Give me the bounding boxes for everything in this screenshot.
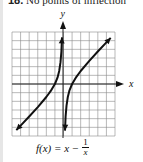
y-axis-arrow-icon bbox=[60, 21, 66, 29]
caption-lhs: f(x) = x − bbox=[36, 142, 79, 154]
function-caption: f(x) = x − 1 x bbox=[36, 138, 89, 157]
fraction-denominator: x bbox=[84, 148, 88, 157]
x-axis-arrow-icon bbox=[116, 81, 124, 87]
y-axis-label: y bbox=[60, 8, 66, 19]
x-axis-label: x bbox=[128, 78, 134, 89]
caption-fraction: 1 x bbox=[82, 138, 89, 157]
